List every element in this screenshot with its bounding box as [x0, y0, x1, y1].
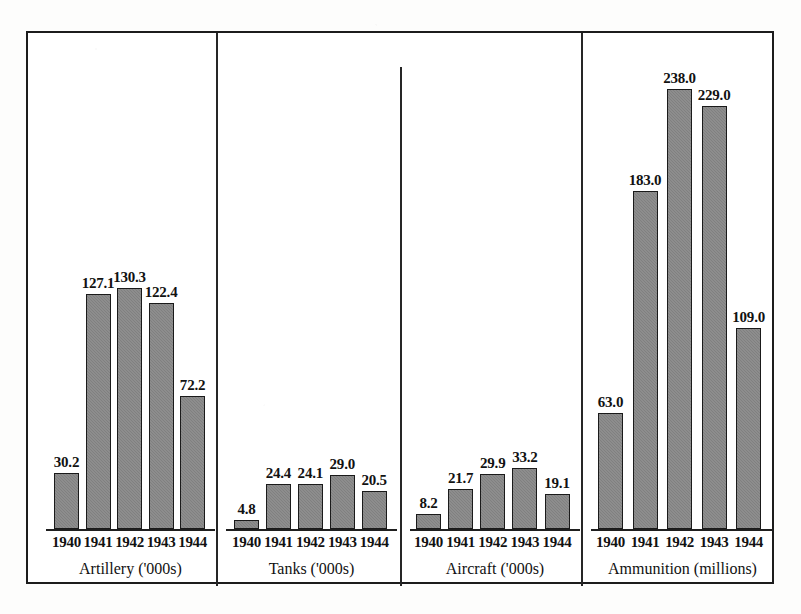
bar-value-label: 238.0: [654, 70, 706, 87]
bar-value-label: 109.0: [723, 309, 775, 326]
bar: [736, 328, 761, 529]
bar-value-label: 229.0: [688, 87, 740, 104]
chart-frame: 30.21940127.11941130.31942122.4194372.21…: [26, 31, 774, 584]
panel-caption: Ammunition (millions): [591, 560, 774, 578]
bar-value-label: 63.0: [585, 394, 637, 411]
year-tick-label: 1944: [728, 534, 770, 551]
bar: [598, 413, 623, 529]
panel-baseline-axis: [591, 529, 774, 531]
bar-value-label: 183.0: [619, 172, 671, 189]
bar: [667, 89, 692, 529]
chart-panel: 63.01940183.01941238.01942229.01943109.0…: [28, 33, 772, 582]
bar: [633, 191, 658, 529]
chart-figure: 30.21940127.11941130.31942122.4194372.21…: [0, 0, 801, 614]
